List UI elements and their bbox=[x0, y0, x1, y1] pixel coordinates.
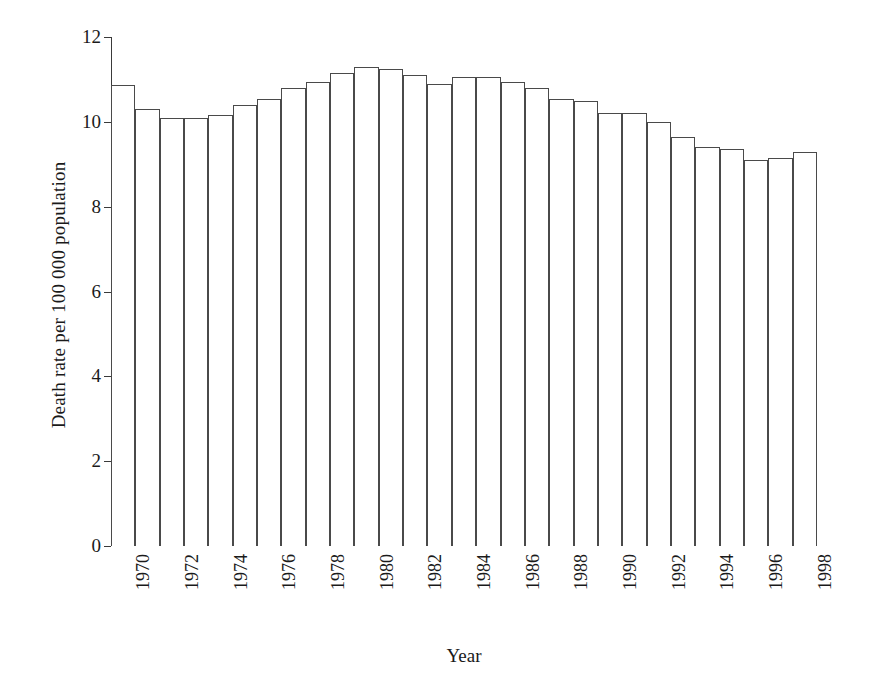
bar bbox=[622, 113, 646, 546]
x-axis-tick-label: 1988 bbox=[571, 554, 591, 644]
y-axis-tick bbox=[104, 207, 111, 208]
bar bbox=[744, 160, 768, 546]
y-axis-tick-label: 10 bbox=[61, 112, 101, 131]
bar bbox=[671, 137, 695, 546]
y-axis-tick-labels: 024681012 bbox=[55, 37, 101, 546]
y-axis-tick-label: 4 bbox=[61, 366, 101, 385]
x-axis-tick-label: 1998 bbox=[815, 554, 835, 644]
y-axis-tick-label: 0 bbox=[61, 536, 101, 555]
x-axis-tick-labels: 1970197219741976197819801982198419861988… bbox=[111, 546, 817, 641]
y-axis-tick-label: 8 bbox=[61, 197, 101, 216]
bar bbox=[720, 149, 744, 546]
bar bbox=[501, 82, 525, 546]
x-axis-tick-label: 1980 bbox=[377, 554, 397, 644]
x-axis-tick-label: 1994 bbox=[717, 554, 737, 644]
bar bbox=[257, 99, 281, 546]
plot-area bbox=[111, 37, 817, 546]
y-axis-tick-label: 6 bbox=[61, 282, 101, 301]
bar bbox=[379, 69, 403, 546]
bar bbox=[768, 158, 792, 546]
x-axis-tick-label: 1982 bbox=[425, 554, 445, 644]
bar bbox=[695, 147, 719, 546]
chart-figure: Death rate per 100 000 population 024681… bbox=[0, 0, 872, 683]
x-axis-tick-label: 1978 bbox=[328, 554, 348, 644]
bar bbox=[135, 109, 159, 546]
x-axis-tick-label: 1972 bbox=[182, 554, 202, 644]
x-axis-tick-label: 1990 bbox=[620, 554, 640, 644]
x-axis-tick-label: 1996 bbox=[766, 554, 786, 644]
bar bbox=[549, 99, 573, 546]
x-axis-tick-label: 1974 bbox=[231, 554, 251, 644]
x-axis-tick-label: 1970 bbox=[133, 554, 153, 644]
bar bbox=[160, 118, 184, 546]
bar bbox=[330, 73, 354, 546]
y-axis-tick bbox=[104, 292, 111, 293]
y-axis-tick bbox=[104, 37, 111, 38]
y-axis-tick bbox=[104, 546, 111, 547]
bar bbox=[427, 84, 451, 546]
bar bbox=[403, 75, 427, 546]
x-axis-title: Year bbox=[111, 645, 817, 667]
bar bbox=[184, 118, 208, 546]
y-axis-tick bbox=[104, 376, 111, 377]
y-axis-tick-label: 2 bbox=[61, 451, 101, 470]
bar bbox=[111, 85, 135, 546]
x-axis-tick-label: 1992 bbox=[669, 554, 689, 644]
x-axis-tick-label: 1976 bbox=[279, 554, 299, 644]
bar bbox=[598, 113, 622, 546]
bar bbox=[354, 67, 378, 546]
x-axis-tick-label: 1986 bbox=[523, 554, 543, 644]
y-axis-tick bbox=[104, 461, 111, 462]
y-axis-tick-label: 12 bbox=[61, 27, 101, 46]
y-axis-tick bbox=[104, 122, 111, 123]
x-axis-tick-label: 1984 bbox=[474, 554, 494, 644]
bar bbox=[306, 82, 330, 546]
bar bbox=[452, 77, 476, 546]
bar bbox=[208, 115, 232, 546]
bar bbox=[281, 88, 305, 546]
bar bbox=[476, 77, 500, 546]
bar bbox=[525, 88, 549, 546]
bar bbox=[574, 101, 598, 546]
bar bbox=[793, 152, 817, 546]
bar bbox=[233, 105, 257, 546]
bar bbox=[647, 122, 671, 546]
